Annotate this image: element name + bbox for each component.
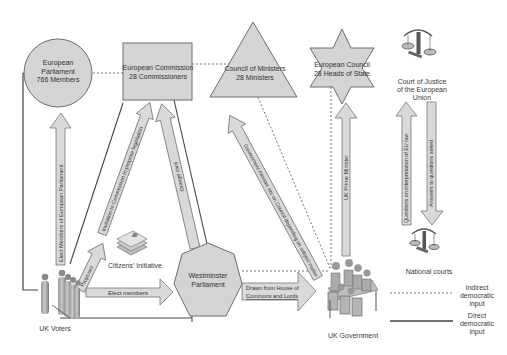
scales-icon-court-of-justice <box>402 30 436 58</box>
direct-line-voters-parliament <box>23 73 38 290</box>
svg-text:Government minister sits on Co: Government minister sits on Council depe… <box>243 143 320 278</box>
eu-uk-democracy-diagram: Elect Members of European Parliament Inv… <box>0 0 507 355</box>
arrow-orange-card: Orange card <box>152 102 205 251</box>
arrow-uk-pm: UK Prime Minister <box>335 103 357 256</box>
arrow-questions: Questions on interpretation of EU law <box>396 102 417 225</box>
svg-text:Questions on interpretation of: Questions on interpretation of EU law <box>403 134 409 223</box>
arrow-answers: Answers to questions asked <box>421 102 443 225</box>
svg-text:UK Prime Minister: UK Prime Minister <box>343 155 349 200</box>
national-courts-label: National courts <box>399 268 459 276</box>
legend-direct-label: Direct democratic input <box>455 312 499 336</box>
meeting-icon-uk-government <box>328 259 378 318</box>
court-of-justice-label: Court of Justice of the European Union <box>392 78 452 102</box>
scales-icon-national-courts <box>410 229 439 253</box>
european-parliament-label: European Parliament 766 Members <box>28 59 88 85</box>
svg-text:Elect Members of European Parl: Elect Members of European Parliament <box>58 164 64 262</box>
direct-line-voters-commission <box>70 103 123 264</box>
svg-text:Invitation to Commission to pr: Invitation to Commission to propose legi… <box>100 126 144 233</box>
arrow-elect-members: Elect members <box>86 279 173 305</box>
european-council-label: European Council 28 Heads of State <box>306 61 378 78</box>
documents-icon-citizens-initiative <box>117 231 147 255</box>
arrow-minister-sits: Government minister sits on Council depe… <box>221 111 327 283</box>
uk-voters-label: UK Voters <box>30 325 80 333</box>
westminster-label: Westminster Parliament <box>180 272 236 289</box>
arrow-invitation: Invitation to Commission to propose legi… <box>94 99 159 237</box>
svg-text:Answers to questions asked: Answers to questions asked <box>428 140 434 207</box>
people-icon-uk-voters <box>41 270 81 318</box>
council-of-ministers-shape[interactable] <box>210 22 297 97</box>
svg-text:Commons and Lords: Commons and Lords <box>246 293 298 299</box>
uk-government-label: UK Government <box>320 332 386 340</box>
svg-text:Elect members: Elect members <box>108 290 148 296</box>
council-of-ministers-label: Council of Ministers 28 Ministers <box>218 65 292 82</box>
legend <box>390 293 453 321</box>
legend-indirect-label: Indirect democratic input <box>455 284 499 308</box>
svg-text:Drawn from House of: Drawn from House of <box>246 285 299 291</box>
arrow-drawn-from: Drawn from House of Commons and Lords <box>242 272 316 311</box>
european-commission-label: European Commission 28 Commissioners <box>120 64 196 81</box>
citizens-initiative-label: Citizens' Initiative <box>100 262 170 270</box>
arrow-elect-meps: Elect Members of European Parliament <box>50 113 71 265</box>
